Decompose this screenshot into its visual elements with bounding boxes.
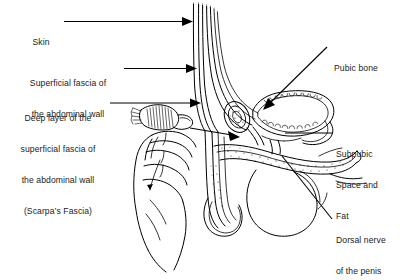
label-scarpas-fascia-line-3: (Scarpa’s Fascia) (6, 206, 110, 216)
label-dorsal-nerve: Dorsal nerve of the penis (336, 214, 410, 280)
label-subpubic-space-line-0: Subpubic (336, 149, 408, 159)
label-scarpas-fascia: Deep layer of the superficial fascia of … (6, 92, 110, 227)
label-superficial-fascia-line-0: Superficial fascia of (12, 78, 124, 88)
label-pubic-bone-line-0: Pubic bone (334, 63, 406, 73)
label-dorsal-nerve-line-0: Dorsal nerve (336, 235, 410, 245)
label-subpubic-space-line-1: Space and (336, 180, 408, 190)
label-dorsal-nerve-line-1: of the penis (336, 266, 410, 276)
label-scarpas-fascia-line-0: Deep layer of the (6, 113, 110, 123)
label-scarpas-fascia-line-2: the abdominal wall (6, 175, 110, 185)
label-scarpas-fascia-line-1: superficial fascia of (6, 144, 110, 154)
label-skin: Skin (18, 16, 64, 58)
label-skin-line-0: Skin (18, 37, 64, 47)
label-pubic-bone: Pubic bone (334, 42, 406, 84)
